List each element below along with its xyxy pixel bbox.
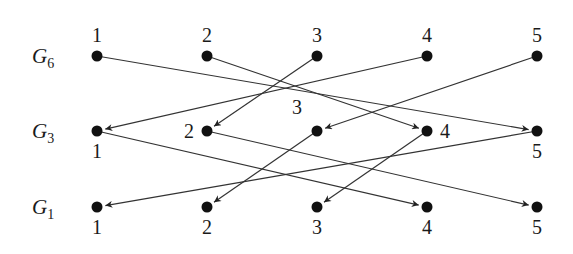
node-label-g3-3: 3 xyxy=(292,96,302,118)
node-label-g1-1: 1 xyxy=(92,216,102,238)
node-g6-3 xyxy=(312,51,323,62)
node-g1-4 xyxy=(422,202,433,213)
node-g3-1 xyxy=(92,126,103,137)
node-g1-3 xyxy=(312,202,323,213)
node-g6-1 xyxy=(92,51,103,62)
node-g1-1 xyxy=(92,202,103,213)
node-label-g6-2: 2 xyxy=(202,24,212,46)
edge-g3-5-to-g1-1 xyxy=(105,131,537,206)
node-label-g3-5: 5 xyxy=(532,140,542,162)
node-label-g1-2: 2 xyxy=(202,216,212,238)
node-label-g1-3: 3 xyxy=(312,216,322,238)
node-g3-4 xyxy=(422,126,433,137)
node-g3-3 xyxy=(312,126,323,137)
node-g6-4 xyxy=(422,51,433,62)
row-label-g1: G1 xyxy=(32,195,54,222)
node-g3-5 xyxy=(532,126,543,137)
node-label-g3-2: 2 xyxy=(184,120,194,142)
edge-g6-1-to-g3-5 xyxy=(97,56,529,130)
edge-g6-5-to-g3-3 xyxy=(325,56,537,128)
edge-g3-3-to-g1-2 xyxy=(214,131,317,202)
edge-g6-4-to-g3-1 xyxy=(105,56,427,129)
node-label-g1-5: 5 xyxy=(532,216,542,238)
node-g6-5 xyxy=(532,51,543,62)
node-label-g1-4: 4 xyxy=(422,216,432,238)
edge-g3-4-to-g1-3 xyxy=(324,131,427,202)
edge-g6-2-to-g3-4 xyxy=(207,56,419,128)
node-label-g6-4: 4 xyxy=(422,24,432,46)
node-label-g6-5: 5 xyxy=(532,24,542,46)
node-label-g3-4: 4 xyxy=(440,120,450,142)
node-g6-2 xyxy=(202,51,213,62)
node-g3-2 xyxy=(202,126,213,137)
row-label-g6: G6 xyxy=(32,44,54,71)
row-label-g3: G3 xyxy=(32,119,54,146)
layered-mapping-diagram: G6 G3 G1 123451234512345 xyxy=(0,0,573,254)
node-g1-5 xyxy=(532,202,543,213)
node-label-g6-1: 1 xyxy=(92,24,102,46)
nodes-layer xyxy=(92,51,543,213)
node-label-g3-1: 1 xyxy=(92,140,102,162)
node-label-g6-3: 3 xyxy=(312,24,322,46)
node-g1-2 xyxy=(202,202,213,213)
